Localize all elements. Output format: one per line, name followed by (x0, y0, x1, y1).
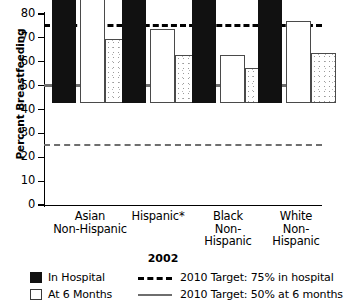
bar-3-0 (258, 0, 282, 103)
category-label-3: WhiteNon-Hispanic (241, 210, 348, 248)
chart-legend: In Hospital At 6 Months 2010 Target: 75%… (0, 271, 326, 307)
black-square-icon (30, 272, 42, 283)
solid-line-icon (138, 294, 172, 296)
category-label-line: Hispanic (241, 235, 348, 248)
x-axis-title: 2002 (0, 252, 326, 265)
category-label-line: White (241, 210, 348, 223)
legend-label-target-50: 2010 Target: 50% at 6 months (180, 288, 343, 301)
legend-label-in-hospital: In Hospital (48, 271, 105, 284)
white-square-icon (30, 289, 42, 300)
bar-3-1 (286, 21, 311, 103)
dashed-line-icon (138, 277, 172, 280)
category-label-line: Non-Hispanic (35, 223, 145, 236)
bar-3-2 (311, 53, 336, 103)
bar-group-3 (0, 0, 326, 205)
legend-label-at-6-months: At 6 Months (48, 288, 112, 301)
legend-label-target-75: 2010 Target: 75% in hospital (180, 271, 334, 284)
